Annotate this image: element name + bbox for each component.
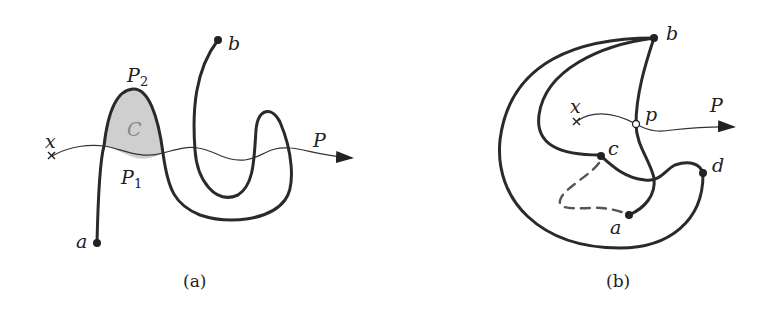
panel-a: x a b P P 2 C P 1 (a) [45,32,352,291]
label-a: a [610,216,621,238]
point-b [650,34,658,42]
point-b [214,36,222,44]
label-P1: P [120,166,135,188]
label-P1-sub: 1 [134,176,142,191]
point-a [625,211,633,219]
caption-a: (a) [183,271,206,291]
label-P2-sub: 2 [140,74,148,89]
point-a [93,239,101,247]
point-d [699,169,707,177]
label-b: b [228,32,240,54]
label-p: p [645,103,657,125]
figure: x a b P P 2 C P 1 (a) [0,0,769,312]
point-p [633,121,640,128]
label-d: d [712,154,724,176]
label-x: x [570,95,581,117]
x-marker-icon [573,118,580,125]
label-P2: P [126,64,141,86]
path-p [52,145,352,160]
label-P: P [709,94,724,116]
label-P: P [312,129,327,151]
label-a: a [76,230,87,252]
point-c [597,152,605,160]
label-C: C [127,118,142,140]
label-x: x [45,130,56,152]
label-c: c [608,137,619,159]
outer-curve [499,38,703,248]
caption-b: (b) [606,271,630,291]
label-b: b [666,22,678,44]
panel-b: x p P b c d a (b) [499,22,734,291]
dashed-curve-c-to-a [560,163,625,213]
